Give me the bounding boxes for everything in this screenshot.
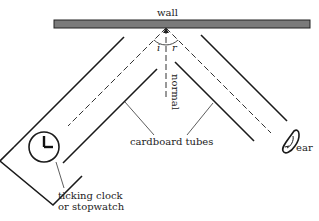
clock-label-line2: or stopwatch: [58, 201, 124, 212]
clock-leader: [56, 162, 64, 188]
reflected-angle-label: r: [172, 42, 177, 53]
tubes-label: cardboard tubes: [130, 136, 213, 147]
right-tube: [175, 35, 287, 141]
left-tube: [0, 37, 157, 205]
ear-label: ear: [296, 142, 313, 153]
tubes-leader-left: [125, 102, 154, 135]
tubes-leader-right: [187, 103, 213, 135]
diagram-graphics: [0, 0, 319, 221]
wall-label: wall: [157, 7, 178, 18]
wall: [54, 20, 310, 28]
reflection-of-sound-diagram: wall i r normal cardboard tubes ticking …: [0, 0, 319, 221]
clock-label-line1: ticking clock: [58, 190, 123, 201]
incident-angle-label: i: [157, 42, 160, 53]
normal-label: normal: [170, 74, 181, 110]
clock-icon: [29, 132, 59, 162]
